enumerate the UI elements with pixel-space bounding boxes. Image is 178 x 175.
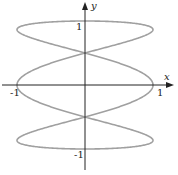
plot-area: [0, 0, 178, 175]
y-tick-neg1: -1: [74, 150, 84, 160]
x-tick-1: 1: [157, 88, 163, 98]
y-tick-1: 1: [76, 22, 82, 32]
y-axis-label: y: [91, 1, 97, 11]
x-axis-label: x: [164, 72, 170, 82]
y-axis-arrow-icon: [82, 2, 88, 10]
x-axis-arrow-icon: [166, 82, 174, 88]
x-tick-neg1: -1: [10, 88, 20, 98]
